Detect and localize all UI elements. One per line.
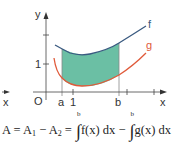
int1-body: f(x) dx − [81,123,129,137]
left-x-label: x [3,96,9,108]
left-arrow-icon [4,90,10,94]
integral-sign-icon: ∫ [76,121,81,141]
int2-body: g(x) dx [135,123,171,137]
formula-eq: = [62,123,75,137]
integral-2: b∫ [129,118,135,139]
a-label: a [58,96,65,108]
formula-minus: − A [36,123,58,137]
x-axis-arrow-icon [160,90,167,95]
y-tick-label: 1 [35,58,41,70]
curve-f-label: f [148,18,152,30]
y-axis-label: y [35,8,41,20]
area-formula: A = A1 − A2 = b∫f(x) dx − b∫g(x) dx [0,118,173,139]
int1-upper-limit: b [77,110,81,118]
x-axis-label: x [160,96,166,108]
integral-sign-icon: ∫ [130,121,135,141]
area-between-curves-diagram: y 1 O a 1 b x x f g [0,0,173,118]
integral-1: b∫ [75,118,81,139]
formula-lhs: A = A [2,123,32,137]
b-label: b [115,96,121,108]
origin-label: O [34,95,43,107]
y-axis-arrow-icon [44,12,49,19]
curve-g-label: g [146,39,152,51]
int2-upper-limit: b [131,110,135,118]
x-tick-label: 1 [70,96,76,108]
curve-f [55,26,146,55]
